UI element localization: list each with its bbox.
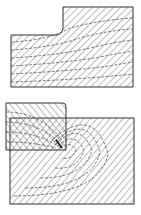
diagram-canvas (0, 0, 141, 215)
tool (6, 103, 66, 150)
bottom-panel (6, 103, 134, 204)
top-panel (11, 7, 133, 87)
stepped-block (11, 7, 133, 87)
